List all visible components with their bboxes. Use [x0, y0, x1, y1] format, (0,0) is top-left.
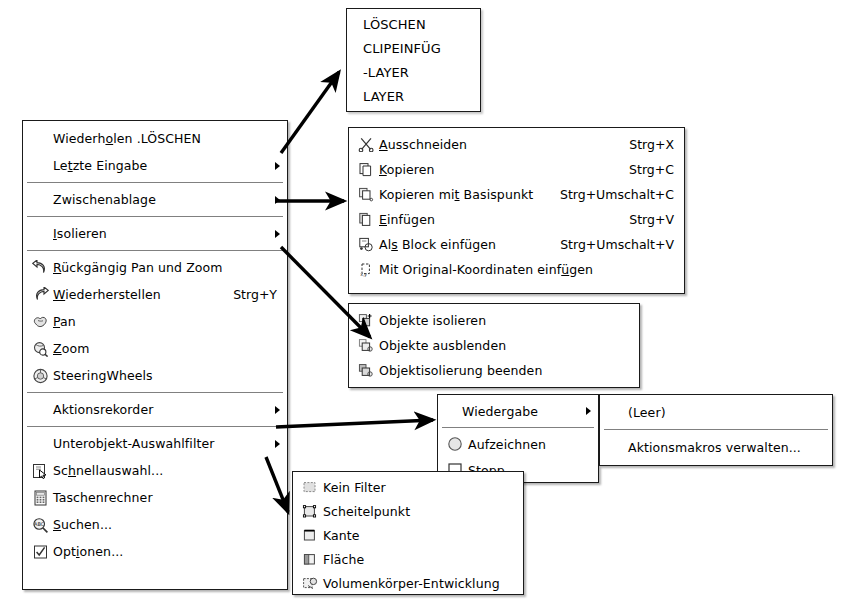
- action-macros-submenu-panel: (Leer) Aktionsmakros verwalten...: [599, 394, 833, 466]
- menu-item-aufzeichnen[interactable]: Aufzeichnen: [438, 431, 598, 457]
- clipboard-submenu-panel: Ausschneiden Strg+X Kopieren Strg+C: [348, 127, 685, 294]
- menu-item-schnellauswahl[interactable]: Schnellauswahl...: [23, 457, 287, 484]
- chevron-right-icon: [275, 162, 280, 170]
- steering-wheel-icon: [29, 367, 51, 385]
- menu-separator: [442, 427, 594, 428]
- screenshot-canvas: LÖSCHEN CLIPEINFÜG -LAYER LAYER Wiederho…: [0, 0, 860, 615]
- list-item[interactable]: -LAYER: [347, 60, 480, 84]
- subobject-filter-submenu-panel: Kein Filter Scheitelpunkt: [292, 471, 524, 595]
- menu-item-taschenrechner[interactable]: Taschenrechner: [23, 484, 287, 511]
- menu-item-letzte-eingabe[interactable]: Letzte Eingabe: [23, 152, 287, 179]
- menu-item-label: Kopieren mit Basispunkt: [377, 187, 538, 202]
- paste-icon: [355, 211, 377, 229]
- menu-item-wiedergabe[interactable]: Wiedergabe: [438, 398, 598, 424]
- menu-item-optionen[interactable]: Optionen...: [23, 538, 287, 565]
- quick-select-icon: [29, 462, 51, 480]
- menu-item-flaeche[interactable]: Fläche: [293, 547, 523, 571]
- pan-hand-icon: [29, 313, 51, 331]
- menu-item-label: Einfügen: [377, 212, 607, 227]
- menu-separator: [27, 182, 283, 183]
- menu-item-wiederholen[interactable]: Wiederholen .LÖSCHEN: [23, 125, 287, 152]
- menu-item-aktionsmakros-verwalten[interactable]: Aktionsmakros verwalten...: [600, 433, 832, 461]
- menu-item-wiederherstellen[interactable]: Wiederherstellen Strg+Y: [23, 281, 287, 308]
- face-icon: [299, 550, 321, 568]
- menu-item-rueckgaengig-pan-zoom[interactable]: Rückgängig Pan und Zoom: [23, 254, 287, 281]
- menu-item-leer[interactable]: (Leer): [600, 398, 832, 426]
- list-item[interactable]: LAYER: [347, 84, 480, 108]
- paste-coordinates-icon: x,y: [355, 261, 377, 279]
- menu-item-einfuegen[interactable]: Einfügen Strg+V: [349, 207, 684, 232]
- menu-item-suchen[interactable]: ABC Suchen...: [23, 511, 287, 538]
- isolate-submenu-panel: Objekte isolieren Objekte ausblenden: [348, 303, 640, 388]
- main-context-menu-panel: Wiederholen .LÖSCHEN Letzte Eingabe Zwis…: [22, 120, 288, 590]
- list-item[interactable]: LÖSCHEN: [347, 12, 480, 36]
- menu-item-label: Wiederholen .LÖSCHEN: [51, 131, 281, 146]
- record-circle-icon: [444, 435, 466, 453]
- menu-item-volumenkoerper-entwicklung[interactable]: Volumenkörper-Entwicklung: [293, 571, 523, 595]
- menu-item-kopieren[interactable]: Kopieren Strg+C: [349, 157, 684, 182]
- find-abc-icon: ABC: [29, 516, 51, 534]
- menu-separator: [27, 392, 283, 393]
- calculator-icon: [29, 489, 51, 507]
- hide-objects-icon: [355, 337, 377, 355]
- repeat-command-list-panel: LÖSCHEN CLIPEINFÜG -LAYER LAYER: [346, 8, 481, 112]
- arrow-to-recorder: [276, 420, 433, 427]
- menu-item-label: Fläche: [321, 552, 517, 567]
- menu-item-shortcut: Strg+Y: [233, 287, 281, 302]
- menu-item-label: Letzte Eingabe: [51, 158, 281, 173]
- menu-item-label: SteeringWheels: [51, 368, 281, 383]
- menu-item-shortcut: Strg+Umschalt+C: [560, 187, 678, 202]
- menu-item-als-block-einfuegen[interactable]: Als Block einfügen Strg+Umschalt+V: [349, 232, 684, 257]
- menu-item-unterobjekt-auswahlfilter[interactable]: Unterobjekt-Auswahlfilter: [23, 430, 287, 457]
- menu-item-label: Objekte isolieren: [377, 313, 633, 328]
- menu-item-kante[interactable]: Kante: [293, 523, 523, 547]
- menu-item-label: Kante: [321, 528, 517, 543]
- chevron-right-icon: [275, 196, 280, 204]
- undo-arrow-icon: [29, 259, 51, 277]
- menu-item-scheitelpunkt[interactable]: Scheitelpunkt: [293, 499, 523, 523]
- menu-item-zoom[interactable]: Zoom: [23, 335, 287, 362]
- menu-item-steeringwheels[interactable]: SteeringWheels: [23, 362, 287, 389]
- menu-item-label: Wiedergabe: [460, 404, 592, 419]
- menu-item-label: Unterobjekt-Auswahlfilter: [51, 436, 281, 451]
- menu-item-kein-filter[interactable]: Kein Filter: [293, 475, 523, 499]
- chevron-right-icon: [275, 440, 280, 448]
- end-isolation-icon: [355, 362, 377, 380]
- menu-item-label: Ausschneiden: [377, 137, 607, 152]
- menu-item-objekte-isolieren[interactable]: Objekte isolieren: [349, 308, 639, 333]
- menu-item-label: (Leer): [626, 405, 826, 420]
- menu-item-label: Aktionsrekorder: [51, 402, 281, 417]
- chevron-right-icon: [275, 406, 280, 414]
- menu-item-ausschneiden[interactable]: Ausschneiden Strg+X: [349, 132, 684, 157]
- menu-separator: [604, 429, 828, 430]
- list-item[interactable]: CLIPEINFÜG: [347, 36, 480, 60]
- menu-item-label: Aufzeichnen: [466, 437, 592, 452]
- redo-arrow-icon: [29, 286, 51, 304]
- copy-icon: [355, 161, 377, 179]
- paste-block-icon: [355, 236, 377, 254]
- menu-item-kopieren-mit-basispunkt[interactable]: Kopieren mit Basispunkt Strg+Umschalt+C: [349, 182, 684, 207]
- menu-item-label: Zwischenablage: [51, 192, 281, 207]
- menu-item-label: Taschenrechner: [51, 490, 281, 505]
- menu-item-label: Objektisolierung beenden: [377, 363, 633, 378]
- menu-item-isolieren[interactable]: Isolieren: [23, 220, 287, 247]
- no-filter-icon: [299, 478, 321, 496]
- menu-item-label: Volumenkörper-Entwicklung: [321, 576, 517, 591]
- menu-item-label: Rückgängig Pan und Zoom: [51, 260, 281, 275]
- isolate-objects-icon: [355, 312, 377, 330]
- menu-item-label: Zoom: [51, 341, 281, 356]
- menu-item-objekte-ausblenden[interactable]: Objekte ausblenden: [349, 333, 639, 358]
- vertex-icon: [299, 502, 321, 520]
- menu-item-label: Suchen...: [51, 517, 281, 532]
- list-item-label: CLIPEINFÜG: [361, 41, 474, 56]
- menu-item-shortcut: Strg+Umschalt+V: [560, 237, 678, 252]
- menu-item-pan[interactable]: Pan: [23, 308, 287, 335]
- menu-separator: [27, 250, 283, 251]
- menu-item-label: Schnellauswahl...: [51, 463, 281, 478]
- svg-text:ABC: ABC: [34, 521, 45, 527]
- menu-separator: [27, 426, 283, 427]
- menu-item-zwischenablage[interactable]: Zwischenablage: [23, 186, 287, 213]
- menu-item-objektisolierung-beenden[interactable]: Objektisolierung beenden: [349, 358, 639, 383]
- menu-item-aktionsrekorder[interactable]: Aktionsrekorder: [23, 396, 287, 423]
- menu-item-mit-original-koordinaten-einfuegen[interactable]: x,y Mit Original-Koordinaten einfügen: [349, 257, 684, 282]
